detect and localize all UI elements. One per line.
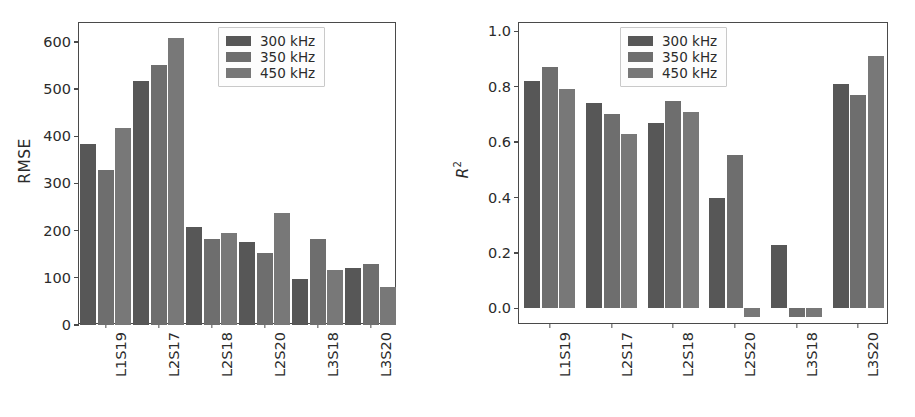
x-axis-tick-label: L2S20 (272, 332, 288, 377)
x-axis-tick-label: L3S20 (865, 332, 881, 377)
y-axis-tick-label: 200 (43, 223, 71, 239)
bar-L2S20-350-kHz (257, 253, 273, 325)
legend-label: 300 kHz (662, 33, 717, 49)
bar-L3S18-300-kHz (292, 279, 308, 325)
x-axis-tick (734, 323, 735, 328)
y-axis-tick (514, 31, 519, 32)
legend-label: 300 kHz (260, 33, 315, 49)
x-axis-tick (858, 323, 859, 328)
bar-L1S19-300-kHz (80, 144, 96, 325)
x-axis-tick (796, 323, 797, 328)
x-axis-tick (611, 323, 612, 328)
y-axis-tick-label: 0.2 (488, 245, 511, 261)
y-axis-tick (514, 308, 519, 309)
bar-L2S18-450-kHz (683, 112, 699, 309)
bar-L2S18-350-kHz (204, 239, 220, 325)
x-axis-tick-label: L2S18 (219, 332, 235, 377)
bar-L3S20-450-kHz (380, 287, 396, 325)
y-axis-tick-label: 300 (43, 175, 71, 191)
bar-L3S20-350-kHz (363, 264, 379, 325)
legend-row: 450 kHz (628, 65, 717, 81)
x-axis-tick (549, 323, 550, 328)
y-axis-tick (74, 41, 79, 42)
legend-label: 450 kHz (662, 65, 717, 81)
legend-swatch-icon (226, 68, 251, 78)
bar-L2S18-300-kHz (186, 227, 202, 325)
y-axis-tick (514, 197, 519, 198)
bar-L3S20-300-kHz (833, 84, 849, 308)
bar-L2S17-300-kHz (133, 81, 149, 325)
figure-two-panel-bar-charts: RMSE 0100200300400500600L1S19L2S17L2S18L… (0, 0, 915, 417)
y-axis-label-r2-exponent: 2 (452, 161, 463, 168)
y-axis-tick-label: 0 (62, 317, 71, 333)
legend-row: 350 kHz (226, 49, 315, 65)
y-axis-tick-label: 100 (43, 270, 71, 286)
bar-L2S20-450-kHz (744, 308, 760, 316)
y-axis-tick (74, 324, 79, 325)
legend-row: 450 kHz (226, 65, 315, 81)
bar-L2S17-450-kHz (621, 134, 637, 309)
bar-L2S20-350-kHz (727, 155, 743, 309)
bar-L3S18-350-kHz (789, 308, 805, 316)
legend-row: 350 kHz (628, 49, 717, 65)
y-axis-label-rmse: RMSE (16, 138, 34, 183)
y-axis-tick-label: 0.8 (488, 79, 511, 95)
legend-swatch-icon (226, 36, 251, 46)
y-axis-tick-label: 400 (43, 128, 71, 144)
x-axis-tick-label: L2S17 (619, 332, 635, 377)
bar-L1S19-350-kHz (542, 67, 558, 308)
y-axis-tick (514, 86, 519, 87)
legend-swatch-icon (226, 52, 251, 62)
y-axis-tick (74, 277, 79, 278)
bar-L3S20-300-kHz (345, 268, 361, 325)
x-axis-tick-label: L2S20 (742, 332, 758, 377)
legend-label: 350 kHz (662, 49, 717, 65)
y-axis-label-r2-base: R (454, 167, 472, 178)
legend-r2: 300 kHz350 kHz450 kHz (620, 27, 727, 87)
bar-L2S17-300-kHz (586, 103, 602, 308)
legend-row: 300 kHz (226, 33, 315, 49)
legend-label: 350 kHz (260, 49, 315, 65)
bar-L2S20-300-kHz (709, 198, 725, 309)
bar-L1S19-450-kHz (559, 89, 575, 308)
legend-rmse: 300 kHz350 kHz450 kHz (218, 27, 325, 87)
x-axis-tick-label: L2S18 (680, 332, 696, 377)
x-axis-tick-label: L2S17 (166, 332, 182, 377)
bar-L1S19-350-kHz (98, 170, 114, 325)
y-axis-tick-label: 0.0 (488, 300, 511, 316)
y-axis-tick-label: 0.4 (488, 190, 511, 206)
legend-label: 450 kHz (260, 65, 315, 81)
y-axis-tick-label: 1.0 (488, 23, 511, 39)
bar-L2S18-450-kHz (221, 233, 237, 325)
y-axis-tick-label: 600 (43, 34, 71, 50)
legend-row: 300 kHz (628, 33, 717, 49)
legend-swatch-icon (628, 52, 653, 62)
legend-swatch-icon (628, 68, 653, 78)
y-axis-label-r2: R2 (452, 161, 471, 179)
bar-L2S17-350-kHz (151, 65, 167, 325)
y-axis-tick-label: 0.6 (488, 134, 511, 150)
bar-L3S18-350-kHz (310, 239, 326, 325)
bar-L1S19-450-kHz (115, 128, 131, 325)
panel-r2: R2 0.00.20.40.60.81.0L1S19L2S17L2S18L2S2… (455, 0, 915, 417)
bar-L2S20-300-kHz (239, 242, 255, 325)
y-axis-tick (74, 136, 79, 137)
bar-L3S20-350-kHz (850, 95, 866, 308)
bar-L3S20-450-kHz (868, 56, 884, 308)
bar-L2S20-450-kHz (274, 213, 290, 325)
x-axis-tick-label: L3S18 (804, 332, 820, 377)
y-axis-tick (514, 252, 519, 253)
x-axis-tick-label: L1S19 (557, 332, 573, 377)
bar-L2S18-300-kHz (648, 123, 664, 309)
x-axis-tick-label: L1S19 (113, 332, 129, 377)
bar-L3S18-450-kHz (327, 270, 343, 325)
bar-L3S18-300-kHz (771, 245, 787, 309)
legend-swatch-icon (628, 36, 653, 46)
x-axis-tick (673, 323, 674, 328)
bar-L2S17-350-kHz (604, 114, 620, 308)
bar-L3S18-450-kHz (806, 308, 822, 316)
y-axis-tick (74, 88, 79, 89)
y-axis-tick (74, 183, 79, 184)
bar-L2S17-450-kHz (168, 38, 184, 325)
y-axis-tick-label: 500 (43, 81, 71, 97)
